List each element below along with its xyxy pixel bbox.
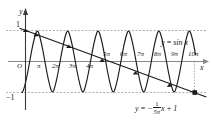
line-equation-lead: y = −: [135, 104, 153, 113]
graph-canvas: [0, 0, 212, 121]
y-tick-label-one: 1: [16, 21, 20, 29]
intersection-point-10pi: [192, 90, 197, 95]
x-tick-3pi: 3π: [69, 63, 76, 70]
x-tick-6pi: 6π: [120, 51, 127, 58]
x-tick-4pi: 4π: [86, 63, 93, 70]
x-tick-pi: π: [37, 63, 41, 70]
y-tick-label-minus-one: −1: [6, 94, 15, 102]
line-equation-label: y = −15πx + 1: [135, 101, 177, 115]
fraction-denominator: 5π: [153, 108, 162, 115]
line-equation-fraction: 15π: [153, 101, 162, 115]
x-tick-8pi: 8π: [154, 51, 161, 58]
x-axis-label: x: [200, 64, 204, 72]
line-equation-trail: x + 1: [161, 104, 177, 113]
origin-label: O: [17, 63, 22, 70]
fraction-numerator: 1: [153, 101, 162, 108]
y-axis-label: y: [19, 8, 23, 16]
x-tick-9pi: 9π: [171, 51, 178, 58]
y-axis-arrow: [23, 8, 28, 15]
sine-equation-label: y = sin x: [161, 39, 188, 47]
math-figure: y x O 1 −1 π 2π 3π 4π 5π 6π 7π 8π 9π 10π…: [0, 0, 212, 121]
x-tick-7pi: 7π: [137, 51, 144, 58]
x-tick-5pi: 5π: [103, 51, 110, 58]
x-tick-2pi: 2π: [52, 63, 59, 70]
x-tick-10pi: 10π: [188, 51, 199, 58]
